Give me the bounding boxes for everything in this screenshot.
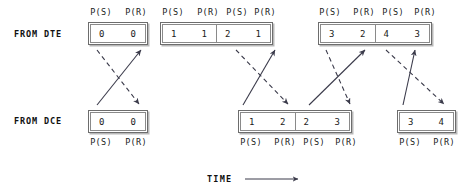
solid-arrow-up-right: [309, 50, 365, 105]
exchange-3-arrows: [309, 50, 365, 105]
exchange-4-arrows: [386, 50, 444, 105]
exchange-1-arrows: [97, 50, 141, 105]
time-axis-label: TIME: [207, 174, 232, 184]
exchange-2-arrows: [236, 50, 288, 105]
dashed-arrow-down-right: [236, 50, 288, 104]
solid-arrow-up-right: [243, 50, 275, 105]
dashed-arrow-down-right: [97, 50, 139, 104]
dashed-arrow-down-right: [386, 50, 444, 104]
solid-arrow-up-right: [403, 50, 415, 105]
arrow-overlay: [0, 0, 473, 196]
